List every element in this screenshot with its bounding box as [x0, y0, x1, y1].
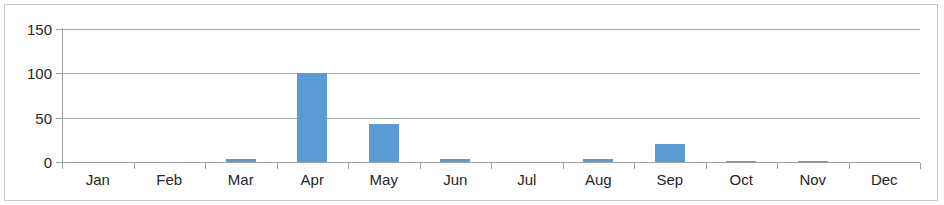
x-axis-tick: [634, 163, 635, 169]
x-axis-tick: [348, 163, 349, 169]
bar-may[interactable]: [369, 124, 399, 162]
y-axis-label: 100: [6, 66, 52, 81]
x-axis-tick: [777, 163, 778, 169]
x-axis-label-jan: Jan: [86, 172, 110, 187]
x-axis-tick: [491, 163, 492, 169]
x-axis-tick: [277, 163, 278, 169]
x-axis-tick: [706, 163, 707, 169]
y-axis-label-group: 050100150: [0, 0, 52, 205]
bar-oct[interactable]: [726, 161, 756, 162]
y-axis-label: 150: [6, 22, 52, 37]
x-axis-label-jun: Jun: [443, 172, 467, 187]
x-axis-label-oct: Oct: [730, 172, 753, 187]
x-axis-tick: [62, 163, 63, 169]
x-axis-label-may: May: [370, 172, 398, 187]
x-axis-tick: [134, 163, 135, 169]
x-axis-label-aug: Aug: [585, 172, 612, 187]
bar-chart: 050100150 JanFebMarAprMayJunJulAugSepOct…: [0, 0, 944, 205]
x-axis-tick: [920, 163, 921, 169]
x-axis-label-apr: Apr: [301, 172, 324, 187]
plot-area: [62, 29, 920, 162]
bar-aug[interactable]: [583, 159, 613, 162]
bar-nov[interactable]: [798, 161, 828, 162]
x-axis-label-feb: Feb: [156, 172, 182, 187]
x-axis-label-nov: Nov: [799, 172, 826, 187]
x-axis-label-sep: Sep: [656, 172, 683, 187]
x-axis-tick: [849, 163, 850, 169]
x-axis-tick: [563, 163, 564, 169]
x-axis-tick: [205, 163, 206, 169]
bar-jun[interactable]: [440, 159, 470, 162]
x-axis-label-mar: Mar: [228, 172, 254, 187]
bar-sep[interactable]: [655, 144, 685, 162]
bar-apr[interactable]: [297, 73, 327, 162]
y-axis-label: 50: [6, 110, 52, 125]
y-axis-label: 0: [6, 155, 52, 170]
x-axis-label-dec: Dec: [871, 172, 898, 187]
bar-mar[interactable]: [226, 159, 256, 162]
x-axis-tick: [420, 163, 421, 169]
x-axis-label-jul: Jul: [517, 172, 536, 187]
